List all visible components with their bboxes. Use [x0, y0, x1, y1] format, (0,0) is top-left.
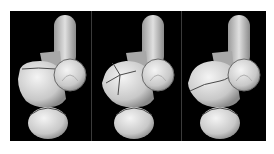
bone-figure: [10, 11, 266, 141]
panel-1: [10, 11, 91, 141]
panel-2: [91, 11, 181, 141]
bone-render-2: [92, 11, 181, 141]
panel-3: [181, 11, 266, 141]
bone-render-3: [182, 11, 266, 141]
bone-render-1: [10, 11, 91, 141]
